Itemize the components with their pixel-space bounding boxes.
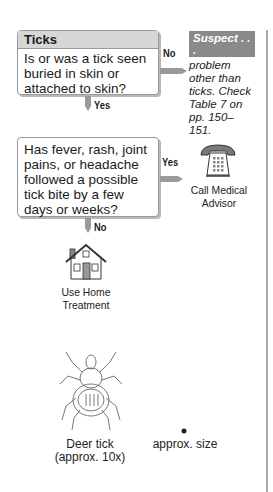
- no-arrow-1: [160, 62, 188, 80]
- house-icon: [64, 243, 108, 285]
- call-medical-label: Call Medical Advisor: [184, 184, 254, 210]
- actual-size-label: approx. size: [145, 438, 225, 451]
- no-label-1: No: [163, 47, 175, 59]
- margin-rule: [266, 30, 268, 492]
- home-treatment-line1: Use Home: [54, 286, 119, 299]
- no-label-2: No: [94, 221, 106, 233]
- suspect-panel: Suspect . . . problem other than ticks. …: [189, 31, 255, 137]
- no-arrow-2: [83, 218, 93, 238]
- actual-size-tick-icon: [181, 420, 187, 438]
- yes-arrow-2: [160, 170, 184, 188]
- question-text-1: Is or was a tick seen buried in skin or …: [18, 49, 158, 99]
- home-treatment-line2: Treatment: [54, 299, 119, 312]
- suspect-header: Suspect . . .: [189, 31, 255, 57]
- home-treatment-label: Use Home Treatment: [54, 286, 119, 312]
- call-medical-line2: Advisor: [184, 197, 254, 210]
- question-box-symptoms: Has fever, rash, joint pains, or headach…: [17, 137, 159, 217]
- deer-tick-caption: Deer tick (approx. 10x): [45, 438, 135, 464]
- box-header-ticks: Ticks: [18, 31, 158, 49]
- deer-tick-illustration: [58, 350, 124, 434]
- yes-label-2: Yes: [162, 156, 178, 168]
- suspect-text: problem other than ticks. Check Table 7 …: [189, 59, 255, 137]
- yes-arrow-1: [83, 96, 93, 116]
- question-text-2: Has fever, rash, joint pains, or headach…: [18, 138, 158, 220]
- question-box-ticks: Ticks Is or was a tick seen buried in sk…: [17, 30, 159, 95]
- yes-label-1: Yes: [94, 99, 110, 111]
- call-medical-line1: Call Medical: [184, 184, 254, 197]
- deer-tick-line2: (approx. 10x): [45, 451, 135, 464]
- telephone-icon: [198, 143, 238, 183]
